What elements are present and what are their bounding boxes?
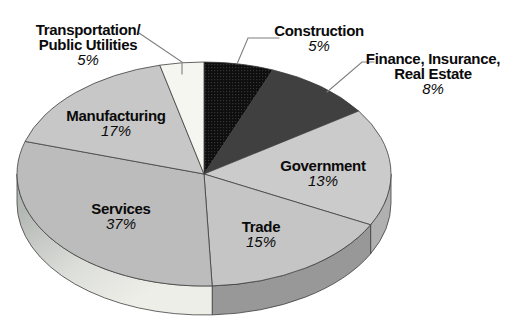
slice-name-text: Construction (274, 23, 364, 38)
leader-line-construction (237, 38, 279, 64)
slice-label-services: Services37% (91, 201, 150, 231)
slice-label-finance-insurance-real-estate: Finance, Insurance,Real Estate8% (366, 51, 500, 96)
slice-label-transportation-public-utilities: Transportation/Public Utilities5% (36, 22, 141, 67)
slice-name-text: Finance, Insurance, (366, 51, 500, 66)
slice-name-text: Real Estate (366, 66, 500, 81)
slice-name-text: Public Utilities (36, 37, 141, 52)
slice-percent-text: 8% (366, 81, 500, 96)
slice-percent-text: 5% (36, 52, 141, 67)
pie-chart-figure: Construction5%Finance, Insurance,Real Es… (0, 0, 518, 327)
slice-name-text: Manufacturing (66, 108, 165, 123)
slice-percent-text: 15% (242, 234, 281, 249)
slice-name-text: Services (91, 201, 150, 216)
slice-label-trade: Trade15% (242, 219, 281, 249)
slice-name-text: Transportation/ (36, 22, 141, 37)
slice-label-construction: Construction5% (274, 23, 364, 53)
slice-percent-text: 17% (66, 123, 165, 138)
slice-percent-text: 13% (280, 173, 365, 188)
slice-label-government: Government13% (280, 158, 365, 188)
slice-name-text: Government (280, 158, 365, 173)
slice-percent-text: 37% (91, 216, 150, 231)
slice-label-manufacturing: Manufacturing17% (66, 108, 165, 138)
slice-percent-text: 5% (274, 38, 364, 53)
slice-name-text: Trade (242, 219, 281, 234)
